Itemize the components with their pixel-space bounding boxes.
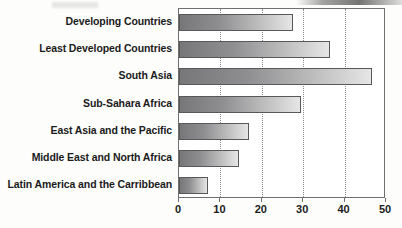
axis-tick-mark [302,198,303,202]
scan-artifact-top-right [296,0,402,5]
bar [179,177,208,194]
category-label: Developing Countries [0,16,172,27]
axis-tick-mark [178,198,179,202]
axis-tick-mark [219,198,220,202]
bar [179,96,301,113]
chart-figure: Developing CountriesLeast Developed Coun… [0,0,402,228]
axis-tick-label: 10 [213,203,225,215]
axis-tick-label: 20 [255,203,267,215]
category-label: South Asia [0,70,172,81]
plot-area [178,8,385,198]
category-label: Sub-Sahara Africa [0,98,172,109]
category-label: Middle East and North Africa [0,152,172,163]
axis-tick-label: 40 [337,203,349,215]
gridline [303,9,304,197]
axis-tick-label: 30 [296,203,308,215]
value-axis: 01020304050 [178,198,385,224]
gridline [345,9,346,197]
axis-tick-mark [385,198,386,202]
bar [179,14,293,31]
category-axis-labels: Developing CountriesLeast Developed Coun… [0,8,176,198]
axis-tick-label: 50 [379,203,391,215]
bar [179,68,372,85]
category-label: Latin America and the Carribbean [0,179,172,190]
bar [179,150,239,167]
category-label: East Asia and the Pacific [0,125,172,136]
axis-tick-mark [261,198,262,202]
axis-tick-label: 0 [175,203,181,215]
bar [179,41,330,58]
category-label: Least Developed Countries [0,43,172,54]
axis-tick-mark [344,198,345,202]
bar [179,123,249,140]
